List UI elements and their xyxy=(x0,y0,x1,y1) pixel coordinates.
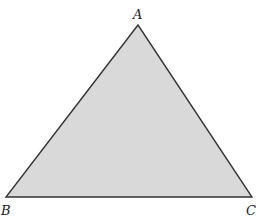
triangle-abc xyxy=(6,25,252,197)
triangle-diagram: A B C xyxy=(0,0,260,223)
vertex-label-b: B xyxy=(0,203,11,218)
vertex-label-c: C xyxy=(246,203,256,218)
vertex-label-a: A xyxy=(132,7,142,22)
